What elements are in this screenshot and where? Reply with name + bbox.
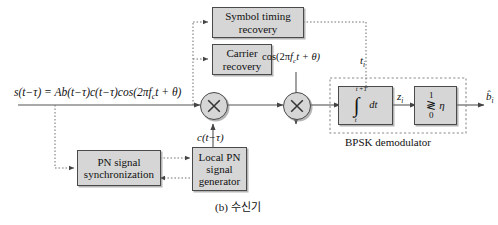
block-label-symbol-timing: Symbol timing recovery <box>225 10 291 35</box>
integrator-expression: t +T ∫ t dt <box>354 95 378 116</box>
block-threshold-comparator[interactable]: 1 ≷ 0 η <box>414 86 457 125</box>
multiply-icon <box>201 93 227 119</box>
label-output-bit: b̂i <box>486 90 494 105</box>
label-input-signal-equation: s(t−τ) = Ab(t−τ)c(t−τ)cos(2πfct + θ) <box>14 86 181 101</box>
label-bpsk-demodulator-group: BPSK demodulator <box>345 136 431 148</box>
label-decision-variable: zi <box>397 90 403 105</box>
integral-upper-limit: t +T <box>356 85 367 92</box>
block-label-pn-sync: PN signal synchronization <box>84 156 154 181</box>
block-pn-signal-synchronization[interactable]: PN signal synchronization <box>77 150 161 186</box>
multiplier-downconvert[interactable] <box>283 92 311 120</box>
integral-lower-limit: t <box>355 116 357 123</box>
multiply-icon <box>284 93 310 119</box>
multiplier-despread[interactable] <box>200 92 228 120</box>
label-pn-code: c(t−τ) <box>197 131 224 143</box>
comparator-threshold: η <box>439 99 444 111</box>
comparator-expression: 1 ≷ 0 η <box>426 91 444 119</box>
label-timing-instant: ti <box>360 54 365 69</box>
label-carrier-output: cos(2πfct + θ) <box>262 51 320 65</box>
block-label-carrier-recovery: Carrier recovery <box>223 47 261 72</box>
integral-sign: ∫ <box>354 93 360 117</box>
receiver-block-diagram: Symbol timing recovery Carrier recovery … <box>0 0 498 225</box>
block-symbol-timing-recovery[interactable]: Symbol timing recovery <box>212 7 304 38</box>
block-integrator[interactable]: t +T ∫ t dt <box>338 86 393 125</box>
block-label-local-pn: Local PN signal generator <box>199 151 241 188</box>
integral-differential: dt <box>369 99 377 110</box>
figure-caption: (b) 수신기 <box>215 198 261 214</box>
block-local-pn-signal-generator[interactable]: Local PN signal generator <box>192 147 247 191</box>
